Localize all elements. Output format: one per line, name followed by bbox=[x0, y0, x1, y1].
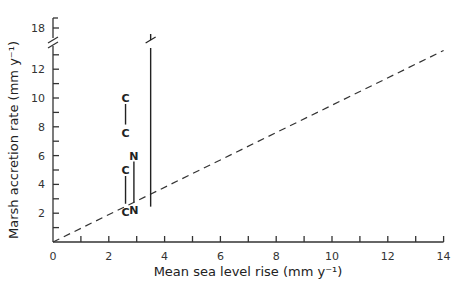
data-point-C: C bbox=[122, 92, 130, 105]
y-tick-label: 2 bbox=[38, 207, 45, 220]
x-tick-label: 12 bbox=[381, 250, 395, 263]
y-tick-label: 8 bbox=[38, 121, 45, 134]
x-tick-label: 4 bbox=[161, 250, 168, 263]
data-point-C: C bbox=[122, 127, 130, 140]
y-tick-label: 18 bbox=[31, 22, 45, 35]
x-tick-label: 10 bbox=[325, 250, 339, 263]
data-point-C: C bbox=[122, 164, 130, 177]
data-point-N: N bbox=[129, 150, 138, 163]
y-tick-label: 10 bbox=[31, 92, 45, 105]
x-tick-label: 8 bbox=[273, 250, 280, 263]
series-M bbox=[146, 34, 156, 207]
x-tick-label: 14 bbox=[437, 250, 451, 263]
y-tick-label: 4 bbox=[38, 178, 45, 191]
x-tick-label: 6 bbox=[217, 250, 224, 263]
y-axis-title: Marsh accretion rate (mm y⁻¹) bbox=[6, 41, 21, 239]
scatter-chart: 024681012142468101218 CCCCNN Mean sea le… bbox=[0, 0, 459, 292]
y-tick-label: 12 bbox=[31, 63, 45, 76]
data-points: CCCCNN bbox=[122, 34, 156, 219]
series-N: NN bbox=[129, 150, 138, 218]
x-axis-title: Mean sea level rise (mm y⁻¹) bbox=[154, 264, 343, 279]
one-to-one-reference-line bbox=[53, 50, 444, 242]
axes: 024681012142468101218 bbox=[31, 18, 451, 263]
series-C: CC bbox=[122, 92, 130, 140]
x-tick-label: 2 bbox=[105, 250, 112, 263]
y-tick-label: 6 bbox=[38, 150, 45, 163]
data-point-N: N bbox=[129, 204, 138, 217]
x-tick-label: 0 bbox=[50, 250, 57, 263]
